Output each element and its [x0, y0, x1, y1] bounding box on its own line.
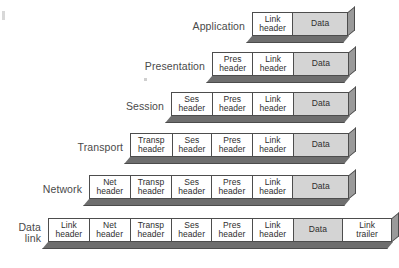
pdu-bottom-face	[83, 199, 350, 206]
pdu-cell-header: Ses header	[173, 134, 213, 156]
layer-row: TransportTransp headerSes headerPres hea…	[130, 133, 349, 169]
pdu-cell-header: Pres header	[212, 219, 253, 241]
pdu-right-face	[349, 46, 356, 76]
pdu-cell-payload: Data	[294, 219, 344, 241]
pdu-cell-payload: Data	[294, 134, 348, 156]
pdu-front-face: Link headerNet headerTransp headerSes he…	[48, 218, 392, 242]
pdu-cell-header: Link header	[253, 134, 294, 156]
layer-name-label: Data link	[0, 218, 48, 248]
pdu-cell-header: Link header	[253, 13, 293, 35]
pdu-right-face	[392, 212, 399, 242]
pdu-bottom-face	[206, 76, 350, 83]
pdu-cell-header: Pres header	[212, 134, 253, 156]
layer-name-label: Presentation	[92, 52, 212, 82]
pdu-cell-payload: Data	[293, 176, 348, 198]
pdu-right-face	[348, 6, 355, 36]
pdu-cell-header: Link header	[253, 93, 294, 115]
layer-row: PresentationPres headerLink headerData	[212, 52, 349, 88]
pdu-cell-header: Ses header	[172, 219, 212, 241]
layer-name-label: Session	[51, 92, 171, 122]
pdu-cell-header: Net header	[90, 176, 131, 198]
pdu-cell-header: Transp header	[131, 176, 173, 198]
layer-row: NetworkNet headerTransp headerSes header…	[89, 175, 349, 211]
layer-row: ApplicationLink headerData	[252, 12, 348, 48]
layer-row: SessionSes headerPres headerLink headerD…	[171, 92, 349, 128]
layer-row: Data linkLink headerNet headerTransp hea…	[48, 218, 392, 254]
pdu-cell-header: Ses header	[172, 176, 212, 198]
pdu-cell-header: Pres header	[212, 176, 253, 198]
pdu-bottom-face	[42, 242, 393, 249]
pdu-front-face: Link headerData	[252, 12, 348, 36]
pdu-cell-payload: Data	[294, 93, 348, 115]
pdu-bottom-face	[124, 157, 350, 164]
scan-artifact-mark	[2, 11, 5, 20]
pdu-right-face	[349, 127, 356, 157]
pdu-front-face: Pres headerLink headerData	[212, 52, 349, 76]
pdu-cell-header: Link header	[49, 219, 90, 241]
layer-name-label: Application	[132, 12, 252, 42]
pdu-cell-payload: Data	[293, 13, 347, 35]
pdu-front-face: Ses headerPres headerLink headerData	[171, 92, 349, 116]
pdu-cell-header: Net header	[90, 219, 131, 241]
layer-name-label: Network	[0, 175, 89, 205]
pdu-front-face: Transp headerSes headerPres headerLink h…	[130, 133, 349, 157]
pdu-cell-payload: Data	[294, 53, 348, 75]
pdu-bottom-face	[165, 116, 350, 123]
pdu-cell-header: Transp header	[131, 219, 173, 241]
pdu-bottom-face	[246, 36, 349, 43]
pdu-cell-trailer: Link trailer	[343, 219, 391, 241]
pdu-cell-header: Transp header	[131, 134, 173, 156]
pdu-right-face	[349, 169, 356, 199]
pdu-cell-header: Link header	[253, 53, 293, 75]
pdu-cell-header: Pres header	[213, 53, 253, 75]
pdu-cell-header: Link header	[253, 219, 294, 241]
pdu-right-face	[349, 86, 356, 116]
pdu-cell-header: Link header	[253, 176, 294, 198]
pdu-cell-header: Ses header	[172, 93, 213, 115]
pdu-front-face: Net headerTransp headerSes headerPres he…	[89, 175, 349, 199]
pdu-cell-header: Pres header	[213, 93, 254, 115]
layer-name-label: Transport	[10, 133, 130, 163]
